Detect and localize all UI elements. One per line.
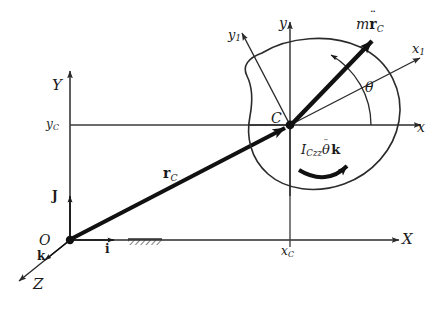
ground-hatch <box>128 239 162 245</box>
rigid-body-outline <box>245 38 400 189</box>
mass-center-point-C <box>286 121 295 130</box>
diagram-svg <box>0 0 438 313</box>
label-Z-axis: Z <box>33 277 43 292</box>
label-unit-vector-j: J <box>52 190 58 202</box>
figure-canvas: Y O X Z J i k yC xC rC y x y1 x1 θ <box>0 0 438 313</box>
label-yc-tick: yC <box>46 118 59 132</box>
label-mass-center-C: C <box>271 111 282 125</box>
label-unit-vector-k: k <box>37 250 45 262</box>
label-local-y-axis: y <box>279 16 287 30</box>
label-Y-axis: Y <box>52 78 62 93</box>
label-local-x-axis: x <box>417 120 425 134</box>
label-theta-angle: θ <box>365 80 373 94</box>
label-body-x1-axis: x1 <box>412 42 425 57</box>
label-body-y1-axis: y1 <box>228 28 241 43</box>
label-X-axis: X <box>402 232 413 247</box>
label-origin-O: O <box>39 233 50 247</box>
label-unit-vector-i: i <box>105 243 110 255</box>
position-vector-rc-arrow <box>71 128 285 239</box>
label-xc-tick: xC <box>281 245 294 259</box>
label-position-vector-rc: rC <box>163 166 178 182</box>
label-inertia-couple: ICzz¨θk <box>301 143 340 158</box>
inertia-couple-arrow <box>299 166 347 177</box>
label-inertia-force: m¨rC <box>356 17 384 33</box>
